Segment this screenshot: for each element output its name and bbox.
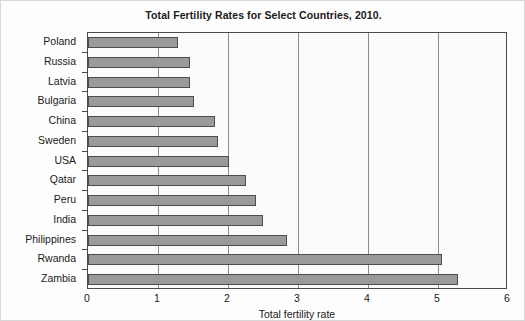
x-tick-label-2: 2 [212, 292, 242, 304]
bar-russia [88, 57, 190, 68]
y-label-china: China [49, 111, 76, 131]
x-axis-title: Total fertility rate [87, 308, 507, 320]
bar-row [88, 112, 506, 132]
chart-title: Total Fertility Rates for Select Countri… [1, 9, 525, 21]
y-label-qatar: Qatar [50, 170, 76, 190]
bar-sweden [88, 136, 218, 147]
x-tick-label-6: 6 [492, 292, 522, 304]
y-label-poland: Poland [43, 32, 76, 52]
y-label-latvia: Latvia [48, 72, 76, 92]
x-tick-label-0: 0 [72, 292, 102, 304]
bar-row [88, 191, 506, 211]
bar-row [88, 92, 506, 112]
plot-area [87, 32, 507, 289]
y-label-india: India [53, 210, 76, 230]
bar-row [88, 231, 506, 251]
y-label-sweden: Sweden [38, 131, 76, 151]
chart-image: Total Fertility Rates for Select Countri… [0, 0, 525, 321]
bar-row [88, 152, 506, 172]
bar-rwanda [88, 254, 442, 265]
y-label-usa: USA [54, 151, 76, 171]
x-tick-label-3: 3 [282, 292, 312, 304]
y-axis-labels: PolandRussiaLatviaBulgariaChinaSwedenUSA… [1, 32, 83, 289]
y-label-russia: Russia [44, 52, 76, 72]
bar-row [88, 270, 506, 290]
bar-row [88, 171, 506, 191]
y-label-philippines: Philippines [25, 230, 76, 250]
bar-usa [88, 156, 229, 167]
bar-bulgaria [88, 96, 194, 107]
bar-row [88, 250, 506, 270]
bar-zambia [88, 274, 458, 285]
bar-latvia [88, 77, 190, 88]
x-tick-label-5: 5 [422, 292, 452, 304]
bar-qatar [88, 175, 246, 186]
bar-row [88, 73, 506, 93]
bar-row [88, 53, 506, 73]
bar-india [88, 215, 263, 226]
x-axis-tick-labels: 0123456 [1, 292, 525, 308]
bar-poland [88, 37, 178, 48]
x-tick-label-4: 4 [352, 292, 382, 304]
bar-row [88, 33, 506, 53]
y-label-peru: Peru [54, 190, 76, 210]
bar-row [88, 132, 506, 152]
bar-china [88, 116, 215, 127]
y-label-zambia: Zambia [41, 269, 76, 289]
bars-layer [88, 33, 506, 288]
y-label-bulgaria: Bulgaria [37, 91, 76, 111]
y-label-rwanda: Rwanda [37, 249, 76, 269]
bar-peru [88, 195, 256, 206]
x-tick-label-1: 1 [142, 292, 172, 304]
bar-philippines [88, 235, 287, 246]
bar-row [88, 211, 506, 231]
